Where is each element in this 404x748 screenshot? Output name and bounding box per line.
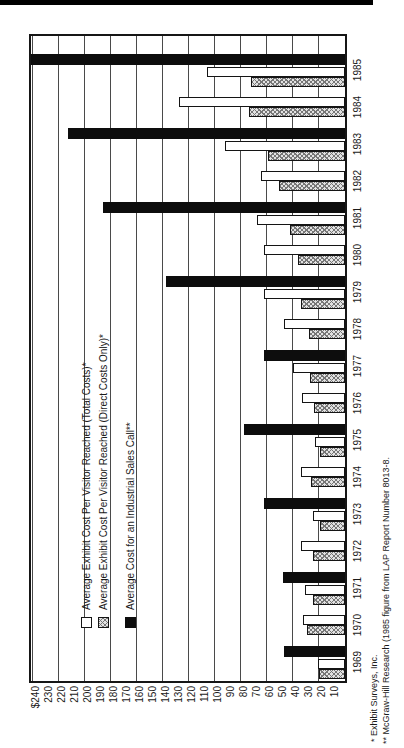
bar-1975-sales-call: [244, 424, 345, 435]
bar-1971-direct-costs: [313, 595, 346, 605]
legend-row-hatch: Average Exhibit Cost Per Visitor Reached…: [97, 334, 110, 628]
bar-1979-sales-call: [166, 276, 345, 287]
year-label-1982: 1982: [352, 170, 364, 192]
bar-1985-direct-costs: [251, 77, 345, 87]
year-label-1984: 1984: [352, 96, 364, 118]
bar-1975-total-costs: [315, 437, 345, 447]
dollar-tick-label-120: 120: [186, 686, 197, 748]
bar-1985-total-costs: [207, 67, 345, 77]
dollar-tick-label-20: 20: [316, 686, 327, 748]
year-label-1979: 1979: [352, 281, 364, 303]
dollar-tick-label-10: 10: [329, 686, 340, 748]
gridline-240: [32, 36, 33, 681]
dollar-tick-label-150: 150: [147, 686, 158, 748]
year-label-1983: 1983: [352, 133, 364, 155]
bar-1977-direct-costs: [310, 373, 345, 383]
dollar-tick-label-240: $240: [30, 686, 41, 748]
legend-swatch-white-icon: [81, 617, 92, 628]
bar-1969-direct-costs: [319, 669, 345, 679]
bar-1980-direct-costs: [298, 255, 345, 265]
year-label-1974: 1974: [352, 466, 364, 488]
bar-1979-direct-costs: [301, 299, 345, 309]
bar-1970-direct-costs: [307, 625, 345, 635]
dollar-tick-label-90: 90: [225, 686, 236, 748]
bar-1973-direct-costs: [320, 521, 345, 531]
bar-1973-total-costs: [313, 511, 346, 521]
dollar-tick-label-70: 70: [251, 686, 262, 748]
bar-1983-total-costs: [225, 141, 345, 151]
bar-1971-total-costs: [305, 585, 345, 595]
dollar-tick-label-100: 100: [212, 686, 223, 748]
year-label-1981: 1981: [352, 207, 364, 229]
bar-1983-direct-costs: [268, 151, 345, 161]
legend-row-white: Average Exhibit Cost Per Visitor Reached…: [80, 362, 93, 628]
page-edge-rule: [0, 0, 373, 5]
bar-1969-total-costs: [318, 659, 345, 669]
dollar-tick-label-170: 170: [121, 686, 132, 748]
bar-1984-total-costs: [179, 97, 345, 107]
year-label-1972: 1972: [352, 540, 364, 562]
year-label-1977: 1977: [352, 355, 364, 377]
dollar-tick-label-140: 140: [160, 686, 171, 748]
rotated-figure: $240230220210200190180170160150140130120…: [0, 0, 404, 748]
legend-label: Average Exhibit Cost Per Visitor Reached…: [98, 334, 109, 610]
bar-1981-sales-call: [103, 202, 345, 213]
bar-1980-total-costs: [264, 245, 345, 255]
legend-swatch-black-icon: [125, 617, 136, 628]
bar-1970-total-costs: [303, 615, 345, 625]
bar-1974-total-costs: [301, 467, 345, 477]
bar-1976-total-costs: [302, 393, 345, 403]
bar-1981-total-costs: [257, 215, 345, 225]
legend-row-black: Average Cost for an Industrial Sales Cal…: [124, 422, 137, 628]
year-label-1975: 1975: [352, 429, 364, 451]
dollar-tick-label-180: 180: [108, 686, 119, 748]
bar-1977-sales-call: [264, 350, 345, 361]
year-label-1985: 1985: [352, 59, 364, 81]
dollar-tick-label-230: 230: [43, 686, 54, 748]
footnote-exhibit-surveys: * Exhibit Surveys, Inc.: [368, 654, 380, 742]
bar-1973-sales-call: [264, 498, 345, 509]
bar-1978-total-costs: [284, 319, 345, 329]
year-label-1980: 1980: [352, 244, 364, 266]
bar-1977-total-costs: [293, 363, 345, 373]
legend-swatch-hatch-icon: [98, 617, 109, 628]
dollar-tick-label-190: 190: [95, 686, 106, 748]
dollar-tick-label-50: 50: [277, 686, 288, 748]
year-label-1969: 1969: [352, 651, 364, 673]
bar-1982-total-costs: [261, 171, 346, 181]
year-label-1973: 1973: [352, 503, 364, 525]
bar-1972-total-costs: [301, 541, 345, 551]
legend-label: Average Cost for an Industrial Sales Cal…: [125, 422, 136, 610]
plot-area: [29, 34, 347, 683]
year-label-1971: 1971: [352, 577, 364, 599]
year-label-1970: 1970: [352, 614, 364, 636]
bar-1982-direct-costs: [279, 181, 345, 191]
dollar-tick-label-220: 220: [56, 686, 67, 748]
dollar-tick-label-40: 40: [290, 686, 301, 748]
dollar-tick-label-80: 80: [238, 686, 249, 748]
bar-1972-direct-costs: [313, 551, 346, 561]
bar-1969-sales-call: [284, 646, 345, 657]
year-label-1978: 1978: [352, 318, 364, 340]
bar-1976-direct-costs: [314, 403, 345, 413]
footnote-mcgraw-hill: ** McGraw-Hill Research (1985 figure fro…: [380, 457, 392, 744]
dollar-tick-label-210: 210: [69, 686, 80, 748]
bar-1974-direct-costs: [311, 477, 345, 487]
year-label-1976: 1976: [352, 392, 364, 414]
gridline-220: [58, 36, 59, 681]
bar-1984-direct-costs: [249, 107, 345, 117]
bar-1983-sales-call: [68, 128, 345, 139]
bar-1985-sales-call: [30, 54, 345, 65]
legend-label: Average Exhibit Cost Per Visitor Reached…: [81, 362, 92, 610]
dollar-tick-label-110: 110: [199, 686, 210, 748]
dollar-tick-label-30: 30: [303, 686, 314, 748]
bar-1975-direct-costs: [320, 447, 345, 457]
dollar-tick-label-160: 160: [134, 686, 145, 748]
scanned-chart-page: $240230220210200190180170160150140130120…: [0, 0, 404, 748]
bar-1979-total-costs: [264, 289, 345, 299]
dollar-tick-label-130: 130: [173, 686, 184, 748]
bar-1981-direct-costs: [290, 225, 345, 235]
bar-1971-sales-call: [283, 572, 345, 583]
dollar-tick-label-60: 60: [264, 686, 275, 748]
bar-1978-direct-costs: [309, 329, 345, 339]
